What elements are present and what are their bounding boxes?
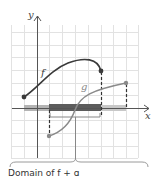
caption-brace: [10, 159, 148, 167]
g-label: g: [81, 82, 87, 92]
f-left-endpoint: [22, 95, 27, 100]
y-axis-label: y: [28, 10, 34, 20]
x-axis-label: x: [145, 111, 151, 121]
caption: Domain of f + g: [8, 168, 158, 176]
g-right-endpoint: [124, 81, 128, 85]
g-left-endpoint: [47, 134, 51, 138]
domain-diagram: [0, 0, 160, 176]
f-label: f: [41, 68, 45, 78]
f-right-endpoint: [99, 69, 104, 74]
